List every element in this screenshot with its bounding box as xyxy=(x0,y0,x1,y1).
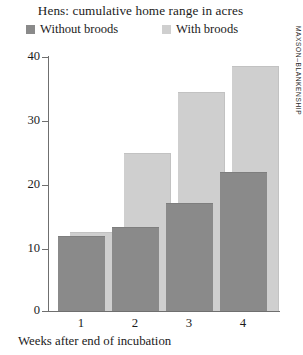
x-tick-label-2: 2 xyxy=(120,316,150,331)
bar-without-broods-week-2 xyxy=(112,227,159,311)
bar-group-week-4 xyxy=(220,310,290,311)
bar-without-broods-week-4 xyxy=(220,172,267,311)
x-axis-title: Weeks after end of incubation xyxy=(18,334,268,349)
x-tick-label-1: 1 xyxy=(66,316,96,331)
x-tick-label-4: 4 xyxy=(228,316,258,331)
bar-series-container xyxy=(0,0,303,355)
photo-credit-label: MAXSON–BLANKENSHIP xyxy=(295,26,302,115)
plot-area: 40 30 20 10 0 xyxy=(0,0,303,355)
x-tick-label-3: 3 xyxy=(174,316,204,331)
chart-figure: Hens: cumulative home range in acres Wit… xyxy=(0,0,303,355)
bar-without-broods-week-1 xyxy=(58,236,105,311)
bar-without-broods-week-3 xyxy=(166,203,213,311)
